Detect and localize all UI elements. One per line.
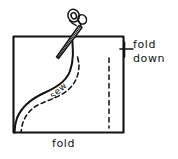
fold-down-label-line2: down — [133, 53, 165, 64]
fold-down-callout: fold down — [133, 39, 165, 64]
diagram-canvas — [0, 0, 178, 159]
fabric-rectangle — [14, 37, 124, 133]
sewing-diagram: fold down fold sew — [0, 0, 178, 159]
thread-loops-icon — [66, 8, 88, 27]
fold-down-label-line1: fold — [133, 39, 165, 50]
fold-bottom-label: fold — [52, 138, 75, 149]
